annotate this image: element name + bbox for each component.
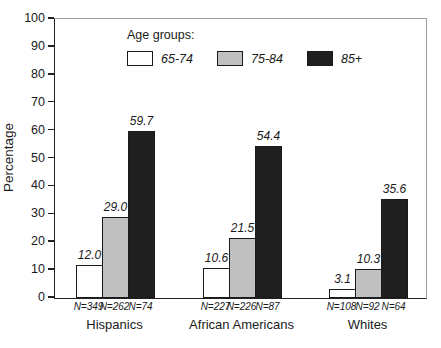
bar	[381, 199, 408, 298]
bar	[255, 146, 282, 298]
bar-value-label: 59.7	[130, 114, 153, 128]
y-tick-label: 100	[15, 10, 45, 26]
bar-value-label: 10.6	[205, 251, 228, 265]
legend-item: 65-74	[127, 51, 193, 66]
y-tick-label: 70	[15, 94, 45, 110]
bar-value-label: 35.6	[383, 182, 406, 196]
legend-swatch	[217, 51, 243, 66]
legend-swatch	[307, 51, 333, 66]
bar-chart-figure: Percentage 0102030405060708090100 12.029…	[0, 0, 441, 348]
legend-label: 75-84	[251, 52, 283, 66]
category-label: Hispanics	[86, 317, 142, 332]
y-tick-label: 50	[15, 150, 45, 166]
bar-value-label: 3.1	[334, 272, 351, 286]
y-tick-label: 40	[15, 177, 45, 193]
sample-size-label: N=64	[381, 301, 405, 312]
legend-label: 65-74	[161, 52, 193, 66]
y-tick-label: 60	[15, 122, 45, 138]
sample-size-label: N=92	[355, 301, 379, 312]
legend-item: 85+	[307, 51, 362, 66]
bar	[203, 268, 230, 298]
y-tick-label: 0	[15, 289, 45, 305]
category-label: African Americans	[189, 317, 294, 332]
bar-value-label: 10.3	[357, 252, 380, 266]
bar-value-label: 54.4	[257, 129, 280, 143]
bar-value-label: 12.0	[78, 248, 101, 262]
sample-size-label: N=262	[100, 301, 130, 312]
y-tick-label: 30	[15, 205, 45, 221]
bar-value-label: 21.5	[231, 221, 254, 235]
y-tick-label: 90	[15, 38, 45, 54]
sample-size-row: N=349N=262N=74N=227N=226N=87N=108N=92N=6…	[54, 301, 425, 315]
legend: Age groups: 65-7475-8485+	[127, 28, 362, 66]
legend-title: Age groups:	[127, 28, 362, 42]
y-tick-label: 20	[15, 233, 45, 249]
plot-area: 12.029.059.710.621.554.43.110.335.6 Age …	[54, 18, 427, 299]
bar	[128, 131, 155, 298]
bar	[76, 265, 103, 298]
bar	[102, 217, 129, 298]
legend-item: 75-84	[217, 51, 283, 66]
sample-size-label: N=226	[227, 301, 257, 312]
sample-size-label: N=87	[255, 301, 279, 312]
bar	[329, 289, 356, 298]
legend-label: 85+	[341, 52, 362, 66]
bar	[355, 269, 382, 298]
y-tick-label: 80	[15, 66, 45, 82]
bar	[229, 238, 256, 298]
bar-value-label: 29.0	[104, 200, 127, 214]
category-label: Whites	[348, 317, 388, 332]
legend-row: 65-7475-8485+	[127, 51, 362, 66]
sample-size-label: N=74	[128, 301, 152, 312]
category-label-row: HispanicsAfrican AmericansWhites	[54, 317, 425, 335]
y-tick-label: 10	[15, 261, 45, 277]
legend-swatch	[127, 51, 153, 66]
sample-size-label: N=108	[327, 301, 357, 312]
